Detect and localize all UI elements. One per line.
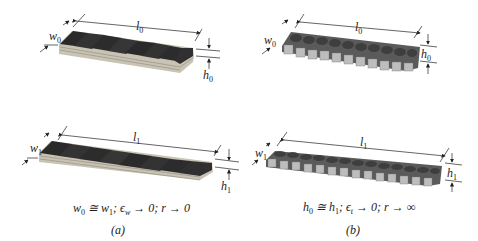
panel-a-top-block [59,31,194,73]
label-w0-a: w0 [49,29,61,45]
panel-b-bottom-block [266,151,442,186]
label-h1-b: h1 [447,166,457,182]
label-l1-a: l1 [133,130,140,146]
label-l1-b: l1 [360,135,367,151]
label-w1-a: w1 [30,141,42,157]
label-l0-b: l0 [355,20,362,36]
label-l0-a: l0 [136,19,143,35]
panel-b-top-block [282,32,420,71]
label-h0-a: h0 [203,68,213,84]
label-w0-b: w0 [264,33,276,49]
panel-a-condition: w0 ≅ w1; ϵw → 0; r → 0 [73,201,190,217]
panel-a-label: (a) [111,223,125,238]
panel-b-condition: h0 ≅ h1; ϵt → 0; r → ∞ [303,200,415,216]
label-h0-b: h0 [421,47,431,63]
panel-b-label: (b) [346,223,360,238]
label-w1-b: w1 [255,146,267,162]
panel-a-bottom-block [39,141,213,180]
label-h1-a: h1 [221,179,231,195]
